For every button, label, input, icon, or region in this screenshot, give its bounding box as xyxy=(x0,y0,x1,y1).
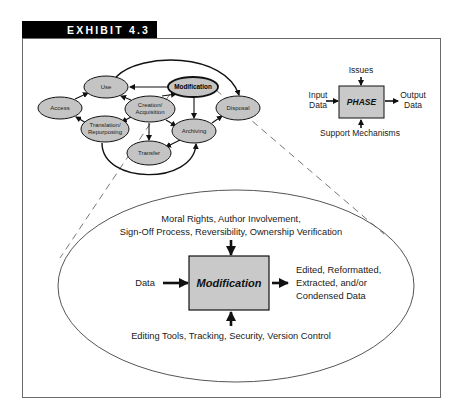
node-modification: Modification xyxy=(168,77,218,97)
modification-detail: Moral Rights, Author Involvement, Sign-O… xyxy=(120,214,381,341)
phase-box-label: PHASE xyxy=(347,97,377,107)
legend-support-label: Support Mechanisms xyxy=(320,128,400,138)
node-modification-label: Modification xyxy=(174,83,212,90)
node-translation-label-2: Repurposing xyxy=(88,129,122,135)
edge-access-use xyxy=(75,93,88,99)
node-disposal-label: Disposal xyxy=(226,105,249,111)
detail-output-line-1: Edited, Reformatted, xyxy=(296,265,381,275)
node-archiving-label: Archiving xyxy=(182,128,207,134)
node-disposal: Disposal xyxy=(216,96,260,120)
legend-output-label-1: Output xyxy=(400,90,426,100)
node-archiving: Archiving xyxy=(172,119,216,143)
edge-archiving-disposal xyxy=(212,116,222,123)
node-use: Use xyxy=(84,76,128,98)
detail-output-line-2: Extracted, and/or xyxy=(296,278,367,288)
detail-input-label: Data xyxy=(135,278,155,288)
node-access-label: Access xyxy=(50,105,69,111)
node-translation-label-1: Translation/ xyxy=(89,122,120,128)
legend-output-label-2: Data xyxy=(404,100,422,110)
edge-creation-use xyxy=(121,96,131,100)
lifecycle-diagram: Use Access Translation/ Repurposing Crea… xyxy=(0,0,460,417)
legend-input-label-1: Input xyxy=(309,90,329,100)
detail-support-label: Editing Tools, Tracking, Security, Versi… xyxy=(131,331,331,341)
node-transfer-label: Transfer xyxy=(138,150,160,156)
detail-output-line-3: Condensed Data xyxy=(296,291,367,301)
modification-box-label: Modification xyxy=(197,277,262,289)
node-transfer: Transfer xyxy=(127,141,171,165)
node-access: Access xyxy=(38,97,82,119)
cycle-nodes: Use Access Translation/ Repurposing Crea… xyxy=(38,76,260,165)
node-creation-label-1: Creation/ xyxy=(138,102,163,108)
node-creation-label-2: Acquisition xyxy=(135,109,164,115)
node-use-label: Use xyxy=(101,84,112,90)
cycle-arcs xyxy=(102,60,239,175)
phase-legend: Issues Input Data PHASE Output Data Supp… xyxy=(309,65,427,138)
node-creation: Creation/ Acquisition xyxy=(125,96,175,122)
edge-archiving-transfer xyxy=(166,140,180,147)
detail-issues-line-2: Sign-Off Process, Reversibility, Ownersh… xyxy=(120,227,342,237)
legend-issues-label: Issues xyxy=(349,65,374,75)
detail-issues-line-1: Moral Rights, Author Involvement, xyxy=(161,214,301,224)
node-translation: Translation/ Repurposing xyxy=(81,116,129,142)
legend-input-label-2: Data xyxy=(309,100,327,110)
